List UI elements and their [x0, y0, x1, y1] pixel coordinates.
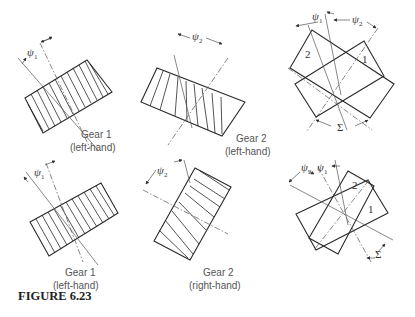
figure-caption: FIGURE 6.23	[18, 289, 92, 303]
mesh-psi1-symbol: ψ	[312, 10, 319, 22]
mesh-gear2-outline	[290, 30, 394, 118]
bmesh-label-gear1: 1	[368, 203, 374, 215]
bmesh-psi2-symbol: ψ	[301, 161, 308, 173]
gear1-hand-label: (left-hand)	[70, 142, 116, 153]
panel-bottom-mesh: ψ 2 ψ 1 2 1 Σ	[289, 160, 393, 262]
gear1-label: Gear 1	[81, 129, 112, 140]
bgear2-label: Gear 2	[203, 267, 234, 278]
bgear1-label: Gear 1	[65, 267, 96, 278]
panel-top-mesh: ψ 1 ψ 2 2 1 Σ	[288, 10, 394, 133]
mesh-label-gear2: 2	[305, 48, 311, 60]
psi2-subscript: 2	[199, 37, 203, 45]
bmesh-gear1-outline	[296, 180, 388, 250]
helical-gears-diagram: ψ 1 Gear 1 (left-hand) ψ 2 Gear 2 (left-…	[0, 0, 415, 317]
bpsi1-symbol: ψ	[34, 166, 41, 178]
mesh-sigma-symbol: Σ	[337, 121, 343, 133]
panel-bottom-gear2: ψ 2 Gear 2 (right-hand)	[143, 160, 241, 291]
bmesh-psi2-subscript: 2	[308, 168, 312, 176]
bgear2-outline	[154, 168, 231, 260]
panel-top-gear2: ψ 2 Gear 2 (left-hand)	[141, 30, 271, 157]
gear2-label: Gear 2	[236, 133, 267, 144]
mesh-psi2-symbol: ψ	[352, 13, 359, 25]
bpsi1-subscript: 1	[41, 173, 45, 181]
gear2-hand-label: (left-hand)	[225, 146, 271, 157]
psi1-symbol: ψ	[27, 46, 34, 58]
bmesh-psi1-subscript: 1	[324, 168, 328, 176]
gear2-centerline	[168, 58, 228, 145]
bpsi2-subscript: 2	[164, 171, 168, 179]
panel-top-gear1: ψ 1 Gear 1 (left-hand)	[18, 37, 116, 153]
bgear2-hand-label: (right-hand)	[189, 280, 241, 291]
bgear1-helix-lines	[36, 186, 114, 253]
mesh-psi1-subscript: 1	[319, 17, 323, 25]
bmesh-sigma-symbol: Σ	[375, 248, 381, 260]
psi2-symbol: ψ	[192, 30, 199, 42]
mesh-psi2-subscript: 2	[359, 20, 363, 28]
bmesh-label-gear2: 2	[352, 179, 358, 191]
panel-bottom-gear1: ψ 1 Gear 1 (left-hand)	[24, 161, 118, 291]
psi1-subscript: 1	[34, 53, 38, 61]
bmesh-psi1-symbol: ψ	[317, 161, 324, 173]
bpsi2-symbol: ψ	[157, 164, 164, 176]
mesh-label-gear1: 1	[362, 53, 368, 65]
gear2-outline	[141, 68, 245, 136]
